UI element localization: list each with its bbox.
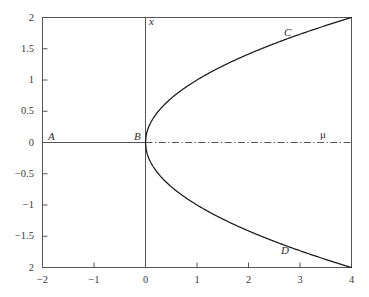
x-tick-label-1: −1 [88, 275, 99, 286]
upper-branch-endpoint [336, 18, 352, 72]
y-tick-marks [43, 18, 48, 268]
x-tick-label-0: −2 [37, 275, 48, 286]
y-axis-title: x [149, 16, 154, 27]
y-tick-label-1: 1.5 [8, 44, 34, 55]
y-tick-label-4: 0 [8, 137, 34, 148]
y-tick-label-8: 2 [8, 262, 34, 273]
annotation-label-B: B [134, 131, 141, 142]
x-tick-label-5: 3 [297, 275, 302, 286]
x-tick-label-6: 4 [349, 275, 354, 286]
x-tick-label-3: 1 [194, 275, 199, 286]
x-tick-label-2: 0 [143, 275, 148, 286]
bifurcation-figure: 2 1.5 1 0.5 0 −0.5 −1 −1.5 2 −2 −1 0 1 2… [0, 0, 369, 297]
y-tick-label-5: −0.5 [8, 169, 34, 180]
annotation-label-A: A [48, 131, 55, 142]
y-tick-label-7: −1.5 [8, 231, 34, 242]
annotation-label-C: C [284, 27, 291, 38]
plot-canvas [0, 0, 369, 297]
upper-branch-curve [146, 18, 352, 143]
y-tick-label-3: 0.5 [8, 106, 34, 117]
x-axis-title: μ [320, 129, 326, 140]
lower-branch-curve [146, 143, 352, 268]
x-tick-marks [43, 263, 352, 268]
y-tick-label-0: 2 [8, 12, 34, 23]
annotation-label-D: D [281, 245, 289, 256]
y-tick-label-6: −1 [8, 200, 34, 211]
x-tick-label-4: 2 [246, 275, 251, 286]
y-tick-label-2: 1 [8, 75, 34, 86]
